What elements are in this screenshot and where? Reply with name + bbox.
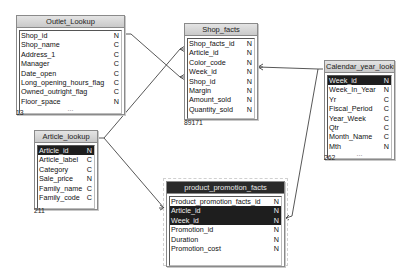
column-type: N	[111, 31, 119, 40]
column-type: N	[271, 206, 279, 215]
column-name: Week_id	[329, 76, 357, 85]
column-row-selected[interactable]: Article_idN	[38, 146, 94, 155]
column-name: Promotion_cost	[171, 244, 221, 253]
column-row[interactable]: QtrC	[328, 123, 391, 132]
column-type: N	[244, 95, 252, 104]
column-name: Date_open	[21, 69, 56, 78]
column-type: C	[381, 95, 389, 104]
column-type: C	[111, 69, 119, 78]
column-type: C	[84, 165, 92, 174]
column-name: Duration	[171, 235, 198, 244]
column-type: C	[111, 87, 119, 96]
column-type: N	[244, 77, 252, 86]
column-row[interactable]: Long_opening_hours_flagC	[20, 78, 121, 87]
column-row[interactable]: Product_promotion_facts_idN	[170, 197, 281, 206]
column-name: Family_code	[39, 193, 80, 202]
column-type: C	[111, 50, 119, 59]
column-list: Article_idN Article_labelC CategoryC Sal…	[37, 145, 95, 209]
column-row[interactable]: Week_In_YearN	[328, 85, 391, 94]
column-type: C	[111, 40, 119, 49]
column-row[interactable]: Owned_outright_flagC	[20, 87, 121, 96]
table-product-promotion-facts[interactable]: product_promotion_facts Product_promotio…	[166, 181, 285, 267]
column-name: Floor_space	[21, 97, 61, 106]
column-row[interactable]: Promotion_costN	[170, 244, 281, 253]
column-type: C	[381, 123, 389, 132]
column-type: N	[381, 76, 389, 85]
column-name: Article_id	[189, 48, 219, 57]
column-name: Week_id	[189, 67, 217, 76]
column-row-selected[interactable]: Week_idN	[328, 76, 391, 85]
column-type: N	[271, 235, 279, 244]
join-article-promotion	[104, 138, 164, 208]
column-name: Article_label	[39, 155, 78, 164]
column-type: C	[111, 78, 119, 87]
column-row[interactable]: Sale_priceN	[38, 174, 94, 183]
column-name: Article_id	[39, 146, 69, 155]
column-name: Sale_price	[39, 174, 73, 183]
column-name: Shop_facts_id	[189, 39, 235, 48]
table-title[interactable]: Article_lookup	[35, 131, 97, 143]
column-row[interactable]: Article_labelC	[38, 155, 94, 164]
more-columns-indicator[interactable]: ...	[328, 151, 391, 158]
column-row-selected[interactable]: Article_idN	[170, 206, 281, 215]
column-row[interactable]: Year_WeekC	[328, 114, 391, 123]
column-list: Week_idN Week_In_YearN YrC Fiscal_Period…	[327, 75, 392, 159]
column-name: Address_1	[21, 50, 55, 59]
column-row[interactable]: Family_nameC	[38, 184, 94, 193]
column-name: Category	[39, 165, 68, 174]
column-row[interactable]: Address_1C	[20, 50, 121, 59]
column-row[interactable]: Quantity_soldN	[188, 105, 254, 114]
table-title[interactable]: Calendar_year_lookup	[325, 61, 394, 73]
column-row[interactable]: MarginN	[188, 86, 254, 95]
column-row-selected[interactable]: Week_idN	[170, 216, 281, 225]
column-type: N	[244, 39, 252, 48]
column-type: N	[244, 67, 252, 76]
row-count-outlet: 13	[16, 109, 24, 116]
column-row[interactable]: Date_openC	[20, 69, 121, 78]
column-type: C	[84, 155, 92, 164]
column-row[interactable]: Family_codeC	[38, 193, 94, 202]
column-type: N	[271, 197, 279, 206]
column-row[interactable]: Shop_nameC	[20, 40, 121, 49]
table-title[interactable]: Outlet_Lookup	[17, 16, 124, 28]
column-row[interactable]: Shop_idN	[188, 77, 254, 86]
column-row[interactable]: Week_idN	[188, 67, 254, 76]
column-row[interactable]: Fiscal_PeriodC	[328, 104, 391, 113]
table-calendar-year-lookup[interactable]: Calendar_year_lookup Week_idN Week_In_Ye…	[324, 60, 395, 160]
table-shop-facts[interactable]: Shop_facts Shop_facts_idN Article_idN Co…	[184, 23, 258, 120]
column-row[interactable]: Shop_idN	[20, 31, 121, 40]
column-row[interactable]: Color_codeN	[188, 58, 254, 67]
column-name: Year_Week	[329, 114, 366, 123]
column-type: N	[84, 146, 92, 155]
schema-canvas[interactable]: Outlet_Lookup Shop_idN Shop_nameC Addres…	[0, 0, 406, 268]
column-row[interactable]: YrC	[328, 95, 391, 104]
column-row[interactable]: Amount_soldN	[188, 95, 254, 104]
table-article-lookup[interactable]: Article_lookup Article_idN Article_label…	[34, 130, 98, 210]
column-name: Long_opening_hours_flag	[21, 78, 104, 87]
column-type: C	[84, 193, 92, 202]
join-calendar-shopfacts	[258, 67, 323, 69]
column-name: Fiscal_Period	[329, 104, 373, 113]
more-columns-indicator[interactable]: ...	[20, 106, 121, 113]
table-title[interactable]: product_promotion_facts	[167, 182, 284, 194]
table-title[interactable]: Shop_facts	[185, 24, 257, 36]
column-row[interactable]: Article_idN	[188, 48, 254, 57]
column-row[interactable]: DurationN	[170, 235, 281, 244]
column-row[interactable]: CategoryC	[38, 165, 94, 174]
column-row[interactable]: Promotion_idN	[170, 225, 281, 234]
column-name: Color_code	[189, 58, 226, 67]
column-row[interactable]: ManagerC	[20, 59, 121, 68]
column-name: Qtr	[329, 123, 339, 132]
column-row[interactable]: Shop_facts_idN	[188, 39, 254, 48]
column-name: Week_id	[171, 216, 199, 225]
row-count-shop-facts: 89171	[184, 119, 203, 126]
column-list: Shop_idN Shop_nameC Address_1C ManagerC …	[19, 30, 122, 114]
column-type: N	[381, 85, 389, 94]
row-count-calendar: 262	[324, 154, 335, 161]
column-type: N	[244, 48, 252, 57]
column-name: Shop_id	[21, 31, 47, 40]
table-outlet-lookup[interactable]: Outlet_Lookup Shop_idN Shop_nameC Addres…	[16, 15, 125, 115]
column-row[interactable]: Month_NameC	[328, 132, 391, 141]
column-type: N	[271, 225, 279, 234]
column-name: Mth	[329, 142, 341, 151]
